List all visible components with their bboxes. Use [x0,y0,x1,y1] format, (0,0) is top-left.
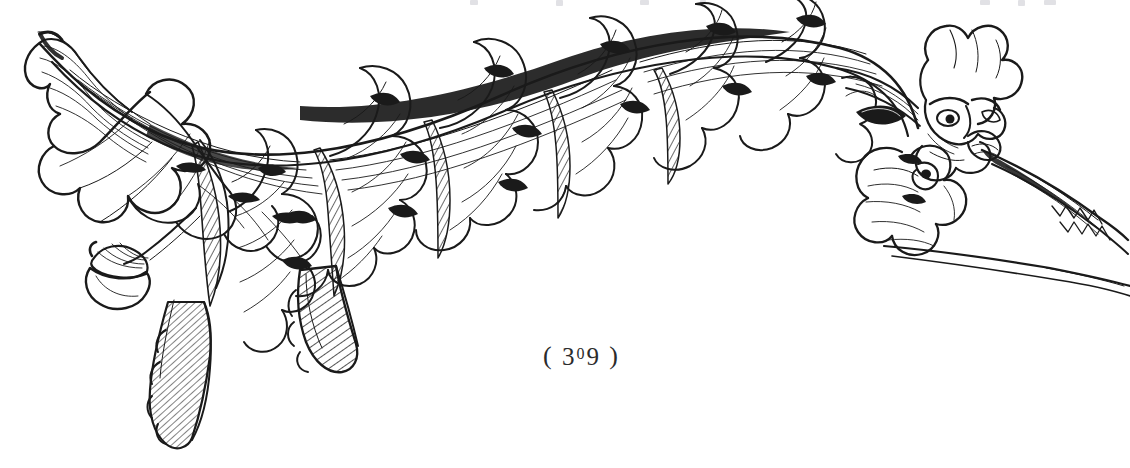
page-number-digit-nine: 9 [587,343,602,370]
book-page: ( 309 ) [0,0,1130,468]
page-number-digit-zero: 0 [577,345,587,362]
page-number: ( 309 ) [0,318,1130,394]
page-number-digit-three: 3 [562,343,577,370]
grotesque-mask [916,26,1023,181]
acanthus-foliage-mid-right [416,39,542,258]
page-number-close-paren: ) [609,341,620,370]
tail-stems [884,150,1130,296]
acanthus-foliage-lower-right [854,146,966,255]
acanthus-scroll-illustration [0,0,1130,468]
acanthus-foliage-center [296,66,430,296]
page-number-open-paren: ( [543,341,554,370]
